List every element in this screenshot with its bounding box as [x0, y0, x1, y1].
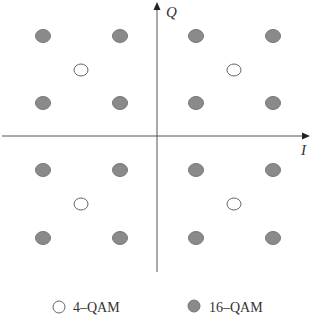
4qam-point: [227, 198, 241, 210]
16qam-points: [36, 30, 281, 245]
q-axis-label: Q: [166, 4, 177, 20]
16qam-point: [36, 232, 51, 245]
axes: I Q: [2, 2, 310, 272]
16qam-point: [113, 30, 128, 43]
4qam-point: [227, 64, 241, 76]
16qam-point: [266, 232, 281, 245]
4qam-point: [74, 64, 88, 76]
i-axis-label: I: [300, 142, 307, 158]
i-axis-arrow-icon: [302, 133, 310, 140]
legend: 4–QAM 16–QAM: [53, 300, 263, 315]
16qam-point: [113, 232, 128, 245]
legend-hollow-marker-icon: [53, 301, 65, 313]
legend-16qam-label: 16–QAM: [209, 300, 263, 315]
16qam-point: [189, 232, 204, 245]
16qam-point: [266, 97, 281, 110]
16qam-point: [189, 30, 204, 43]
16qam-point: [36, 164, 51, 177]
legend-4qam-label: 4–QAM: [73, 300, 120, 315]
16qam-point: [113, 164, 128, 177]
q-axis-arrow-icon: [154, 2, 161, 10]
16qam-point: [36, 97, 51, 110]
16qam-point: [189, 97, 204, 110]
16qam-point: [189, 164, 204, 177]
16qam-point: [266, 164, 281, 177]
16qam-point: [36, 30, 51, 43]
16qam-point: [266, 30, 281, 43]
16qam-point: [113, 97, 128, 110]
4qam-point: [74, 198, 88, 210]
legend-filled-marker-icon: [188, 300, 200, 312]
constellation-diagram: I Q 4–QAM 16–QAM: [0, 0, 312, 320]
